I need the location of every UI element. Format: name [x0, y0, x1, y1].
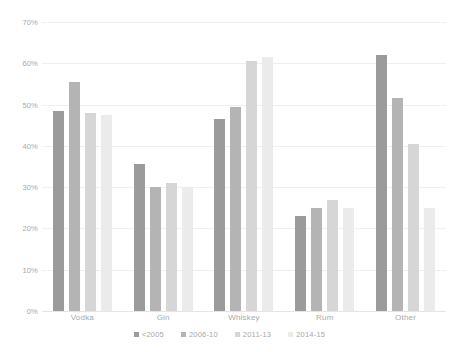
legend-item-label: 2014-15	[296, 330, 325, 339]
plot-area	[42, 22, 446, 311]
y-axis-tick-label: 60%	[4, 59, 38, 68]
legend-item-2011-13[interactable]: 2011-13	[235, 330, 271, 339]
y-axis-tick-label: 20%	[4, 224, 38, 233]
bar[interactable]	[343, 208, 354, 311]
bar[interactable]	[392, 98, 403, 311]
legend-swatch-icon	[288, 332, 293, 337]
bar[interactable]	[311, 208, 322, 311]
bar-groups	[42, 22, 446, 311]
bar[interactable]	[376, 55, 387, 311]
bar[interactable]	[408, 144, 419, 311]
legend-item-2006-10[interactable]: 2006-10	[181, 330, 218, 339]
bar-group-rum	[284, 22, 365, 311]
bar[interactable]	[134, 164, 145, 311]
x-axis-category-label: Whiskey	[204, 313, 285, 329]
bar[interactable]	[85, 113, 96, 311]
bar[interactable]	[69, 82, 80, 311]
y-axis-tick-label: 50%	[4, 100, 38, 109]
legend-item-label: <2005	[142, 330, 164, 339]
y-axis-tick-label: 40%	[4, 141, 38, 150]
bar[interactable]	[182, 187, 193, 311]
x-axis-category-label: Gin	[123, 313, 204, 329]
y-axis-tick-label: 0%	[4, 307, 38, 316]
bar[interactable]	[150, 187, 161, 311]
legend-item-label: 2011-13	[243, 330, 271, 339]
bar[interactable]	[262, 57, 273, 311]
bar[interactable]	[327, 200, 338, 311]
bar[interactable]	[295, 216, 306, 311]
bar[interactable]	[424, 208, 435, 311]
bar[interactable]	[53, 111, 64, 311]
bar-group-whiskey	[204, 22, 285, 311]
legend-item-2014-15[interactable]: 2014-15	[288, 330, 325, 339]
bar[interactable]	[246, 61, 257, 311]
legend-swatch-icon	[181, 332, 186, 337]
gridline	[42, 311, 446, 312]
bar-group-vodka	[42, 22, 123, 311]
y-axis-tick-label: 10%	[4, 265, 38, 274]
bar-chart: 70%60%50%40%30%20%10%0% VodkaGinWhiskeyR…	[0, 0, 459, 352]
chart-legend: <20052006-102011-132014-15	[0, 330, 459, 339]
bar[interactable]	[230, 107, 241, 311]
bar-group-gin	[123, 22, 204, 311]
x-axis-category-label: Other	[365, 313, 446, 329]
x-axis-category-label: Vodka	[42, 313, 123, 329]
bar[interactable]	[214, 119, 225, 311]
legend-item--2005[interactable]: <2005	[134, 330, 164, 339]
bar[interactable]	[166, 183, 177, 311]
bar[interactable]	[101, 115, 112, 311]
legend-item-label: 2006-10	[189, 330, 218, 339]
y-axis-tick-label: 70%	[4, 18, 38, 27]
y-axis-tick-label: 30%	[4, 183, 38, 192]
x-axis-category-labels: VodkaGinWhiskeyRumOther	[42, 313, 446, 329]
legend-swatch-icon	[134, 332, 139, 337]
bar-group-other	[365, 22, 446, 311]
x-axis-category-label: Rum	[284, 313, 365, 329]
legend-swatch-icon	[235, 332, 240, 337]
